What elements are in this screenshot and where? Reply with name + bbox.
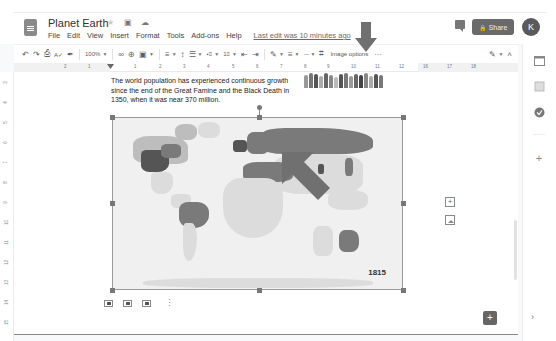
menu-insert[interactable]: Insert xyxy=(110,31,129,40)
suggest-edit-float-icon[interactable] xyxy=(445,215,455,225)
annotation-arrow-icon xyxy=(280,150,332,202)
share-button[interactable]: 🔒 Share xyxy=(472,19,514,35)
redo-icon[interactable]: ↷ xyxy=(31,47,42,61)
resize-handle-s[interactable] xyxy=(257,288,262,293)
vertical-scrollbar[interactable] xyxy=(514,220,517,280)
chevron-down-icon: ▼ xyxy=(198,51,203,57)
chevron-down-icon: ▼ xyxy=(232,51,237,57)
resize-handle-n[interactable] xyxy=(257,115,262,120)
resize-handle-se[interactable] xyxy=(401,288,406,293)
image-wrap-options: ⋮ xyxy=(104,298,174,308)
ruler-tick: 8 xyxy=(304,64,307,69)
wrap-text-icon[interactable] xyxy=(123,300,132,307)
ruler-tick: 13 xyxy=(4,280,9,285)
border-weight-icon[interactable]: ≡▼ xyxy=(286,47,302,61)
add-comment-icon[interactable]: ⊕ xyxy=(126,47,137,61)
weight-glyph: ≡ xyxy=(288,50,293,59)
undo-icon[interactable]: ↶ xyxy=(20,47,31,61)
menu-tools[interactable]: Tools xyxy=(167,31,185,40)
chevron-down-icon: ▼ xyxy=(311,51,316,57)
resize-handle-sw[interactable] xyxy=(110,288,115,293)
ruler-tick: 6 xyxy=(3,141,8,144)
bulleted-list-icon[interactable]: •≡▼ xyxy=(205,47,222,61)
ruler-tick: 7 xyxy=(280,64,283,69)
calendar-icon[interactable] xyxy=(533,54,545,66)
document-page[interactable]: The world population has experienced con… xyxy=(14,72,518,335)
header: Planet Earth ★ ▣ ☁ File Edit View Insert… xyxy=(0,0,556,44)
add-ons-plus-icon[interactable]: + xyxy=(533,152,545,164)
editing-mode-icon[interactable]: ✎▼ xyxy=(487,47,505,61)
menu-view[interactable]: View xyxy=(87,31,103,40)
bullets-glyph: •≡ xyxy=(207,51,213,57)
keep-icon[interactable] xyxy=(533,80,545,92)
numbered-list-icon[interactable]: 1≡▼ xyxy=(221,47,239,61)
menu-edit[interactable]: Edit xyxy=(67,31,80,40)
docs-logo-icon[interactable] xyxy=(24,19,37,36)
divider xyxy=(533,134,545,135)
menu-format[interactable]: Format xyxy=(136,31,160,40)
break-text-icon[interactable] xyxy=(142,300,151,307)
expand-side-panel-icon[interactable]: › xyxy=(531,312,534,322)
wrap-inline-icon[interactable] xyxy=(104,300,113,307)
ruler-tick: 16 xyxy=(423,64,428,69)
resize-handle-ne[interactable] xyxy=(401,115,406,120)
spellcheck-icon[interactable]: A✓ xyxy=(52,47,65,61)
increase-indent-icon[interactable]: ⇥ xyxy=(250,47,261,61)
last-edit-link[interactable]: Last edit was 10 minutes ago xyxy=(254,31,351,40)
numbered-glyph: 1≡ xyxy=(223,51,230,57)
chevron-down-icon: ▼ xyxy=(172,51,177,57)
tasks-icon[interactable] xyxy=(533,106,545,118)
menu-file[interactable]: File xyxy=(48,31,60,40)
paint-format-icon[interactable]: ✒ xyxy=(65,47,76,61)
world-map-image[interactable]: 1815 xyxy=(112,117,403,290)
menu-help[interactable]: Help xyxy=(226,31,241,40)
chevron-down-icon: ▼ xyxy=(149,51,154,57)
dash-glyph: ┄ xyxy=(304,50,309,59)
print-icon[interactable]: ⎙ xyxy=(42,47,52,61)
collapse-menus-icon[interactable]: ˄ xyxy=(505,47,514,61)
align-icon[interactable]: ≡▼ xyxy=(163,47,179,61)
divider xyxy=(112,49,113,60)
add-comment-float-icon[interactable]: + xyxy=(445,197,455,207)
more-options-icon[interactable]: ⋮ xyxy=(165,298,174,308)
resize-handle-nw[interactable] xyxy=(110,115,115,120)
comment-history-icon[interactable] xyxy=(455,20,465,29)
border-color-icon[interactable]: ✎▼ xyxy=(268,47,286,61)
explore-button[interactable]: + xyxy=(483,311,497,325)
ruler-tick: 3 xyxy=(3,81,8,84)
menu-add-ons[interactable]: Add-ons xyxy=(191,31,219,40)
resize-handle-e[interactable] xyxy=(401,201,406,206)
cloud-saved-icon[interactable]: ☁ xyxy=(140,18,149,27)
rotate-handle[interactable] xyxy=(257,105,262,110)
document-title[interactable]: Planet Earth xyxy=(48,17,109,29)
border-dash-icon[interactable]: ┄▼ xyxy=(302,47,318,61)
zoom-select[interactable]: 100%▼ xyxy=(83,47,109,61)
vertical-ruler[interactable]: 3 4 5 6 7 8 9 10 11 12 13 14 15 xyxy=(0,72,14,341)
side-panel: + xyxy=(522,44,556,341)
link-icon[interactable]: ∞ xyxy=(116,47,126,61)
ruler-tick: 11 xyxy=(4,240,9,245)
divider xyxy=(79,49,80,60)
horizontal-ruler[interactable]: 2 1 1 2 3 4 5 6 7 8 9 10 11 12 13 14 15 … xyxy=(14,63,518,72)
line-spacing-icon[interactable]: ↕ xyxy=(179,47,187,61)
ruler-tick: 8 xyxy=(3,181,8,184)
ruler-tick: 12 xyxy=(4,260,9,265)
image-glyph: ▣ xyxy=(139,50,147,59)
ruler-tick: 5 xyxy=(232,64,235,69)
body-paragraph[interactable]: The world population has experienced con… xyxy=(111,76,301,105)
move-to-folder-icon[interactable]: ▣ xyxy=(123,18,132,27)
star-icon[interactable]: ★ xyxy=(106,18,115,27)
people-image[interactable] xyxy=(304,72,388,88)
ruler-tick: 6 xyxy=(256,64,259,69)
chevron-down-icon: ▼ xyxy=(498,51,503,57)
avatar[interactable]: K xyxy=(522,18,540,36)
resize-handle-w[interactable] xyxy=(110,201,115,206)
decrease-indent-icon[interactable]: ⇤ xyxy=(239,47,250,61)
checklist-icon[interactable]: ☰▼ xyxy=(187,47,205,61)
chevron-down-icon: ▼ xyxy=(102,51,107,57)
ruler-tick: 10 xyxy=(4,220,9,225)
ruler-tick: 14 xyxy=(4,300,9,305)
crop-icon[interactable]: ⌗ xyxy=(317,47,326,61)
annotation-down-arrow-icon xyxy=(355,22,377,52)
insert-image-icon[interactable]: ▣▼ xyxy=(137,47,156,61)
